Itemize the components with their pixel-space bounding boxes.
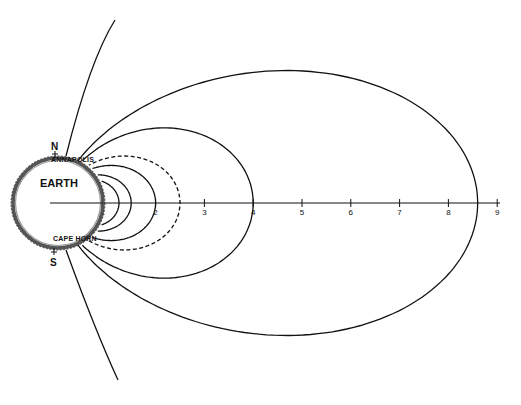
field-line-open-south <box>66 250 118 380</box>
north-label: N <box>51 141 58 152</box>
cape-horn-label: CAPE HORN <box>53 235 97 242</box>
axis-ticks-group: 0123456789 <box>56 199 500 217</box>
earth-label: EARTH <box>40 177 78 189</box>
axis-tick-label-7: 7 <box>397 208 402 217</box>
axis-tick-label-3: 3 <box>202 208 207 217</box>
annapolis-label: ANNAPOLIS <box>51 156 94 163</box>
axis-tick-label-8: 8 <box>446 208 451 217</box>
south-pole-marker: S <box>50 248 57 268</box>
axis-tick-label-2: 2 <box>153 208 158 217</box>
axis-tick-label-9: 9 <box>495 208 500 217</box>
axis-tick-label-5: 5 <box>300 208 305 217</box>
axis-tick-label-6: 6 <box>349 208 354 217</box>
field-lines-group <box>66 20 478 380</box>
axis-tick-label-4: 4 <box>251 208 256 217</box>
south-label: S <box>50 257 57 268</box>
magnetosphere-diagram: 0123456789 EARTH ANNAPOLIS CAPE HORN N S <box>0 0 521 405</box>
field-line-open-north <box>66 20 115 156</box>
